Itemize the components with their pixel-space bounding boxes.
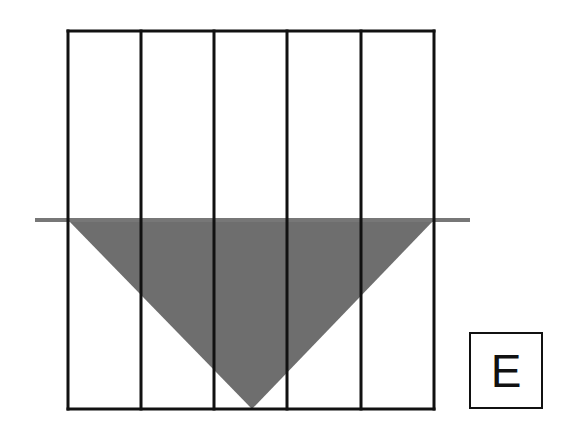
inverted-triangle-shape <box>68 220 434 409</box>
answer-option-label: E <box>491 348 522 394</box>
answer-option-box[interactable]: E <box>469 332 543 409</box>
